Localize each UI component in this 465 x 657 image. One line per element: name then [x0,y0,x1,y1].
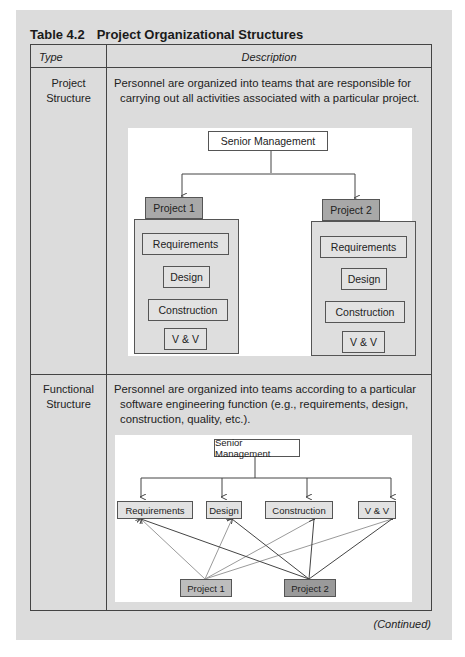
header-description: Description [107,51,431,63]
p2-requirements: Requirements [320,236,407,258]
senior-management-box: Senior Management [214,439,300,457]
p1-construction: Construction [148,299,228,321]
func-construction: Construction [265,501,333,519]
type-line-1: Project [31,76,106,91]
table-title: Project Organizational Structures [97,27,304,42]
func-requirements: Requirements [117,501,193,519]
functional-structure-diagram: Senior Management Requirements Design Co… [115,435,412,602]
p1-vv: V & V [164,328,207,350]
project-2-box: Project 2 [322,199,380,221]
header-divider [31,67,431,68]
p2-vv: V & V [342,331,385,353]
senior-management-box: Senior Management [208,131,328,151]
type-line-2: Structure [31,91,106,106]
func-project-2: Project 2 [284,579,336,597]
table-number: Table 4.2 [30,27,85,42]
project-1-team: Requirements Design Construction V & V [134,219,239,354]
type-line-1: Functional [31,382,106,397]
project-1-box: Project 1 [145,197,203,219]
row-description-functional-structure: Personnel are organized into teams accor… [114,382,432,427]
p1-design: Design [163,266,210,288]
org-structures-table: Type Description Project Structure Perso… [30,44,432,611]
func-project-1: Project 1 [180,579,232,597]
project-2-team: Requirements Design Construction V & V [311,221,416,356]
column-divider [106,45,107,610]
row-type-functional-structure: Functional Structure [31,382,106,412]
func-vv: V & V [358,501,396,519]
func-design: Design [206,501,242,519]
p2-construction: Construction [325,301,405,323]
continued-note: (Continued) [374,618,431,630]
p1-requirements: Requirements [142,233,229,255]
header-type: Type [39,51,63,63]
p2-design: Design [341,268,387,290]
table-caption: Table 4.2Project Organizational Structur… [30,27,303,42]
row-type-project-structure: Project Structure [31,76,106,106]
row-description-project-structure: Personnel are organized into teams that … [114,76,432,106]
project-structure-diagram: Senior Management Project 1 Requirements… [128,128,412,356]
row-divider [31,374,431,375]
type-line-2: Structure [31,397,106,412]
